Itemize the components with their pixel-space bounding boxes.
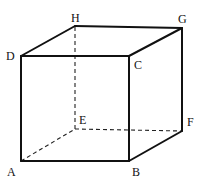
cube-diagram: A B C D E F G H (0, 0, 204, 187)
vertex-label-d: D (6, 49, 15, 63)
edge-DH (21, 26, 75, 56)
vertex-label-a: A (7, 165, 16, 179)
edge-AE (21, 129, 75, 161)
edge-HG (75, 26, 182, 28)
edge-GC (129, 28, 182, 56)
vertex-label-g: G (178, 12, 187, 26)
vertex-label-c: C (134, 58, 142, 72)
vertex-label-e: E (79, 113, 86, 127)
vertex-label-h: H (71, 11, 80, 25)
vertex-label-b: B (132, 165, 140, 179)
edge-FB (129, 131, 182, 161)
vertex-label-f: F (187, 115, 194, 129)
